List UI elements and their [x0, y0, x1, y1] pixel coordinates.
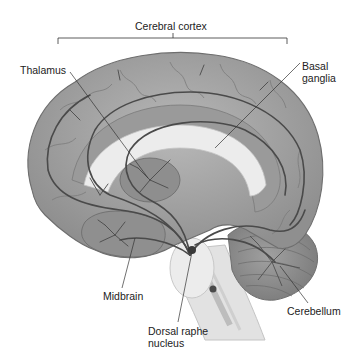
- label-basal-ganglia-line1: Basal: [302, 60, 336, 72]
- label-dorsal-raphe-nucleus: Dorsal raphe nucleus: [148, 325, 208, 349]
- label-midbrain: Midbrain: [103, 290, 143, 302]
- label-dorsal-raphe-line1: Dorsal raphe: [148, 325, 208, 337]
- lower-raphe-dot: [210, 286, 217, 293]
- label-thalamus: Thalamus: [20, 64, 66, 76]
- label-cerebral-cortex: Cerebral cortex: [135, 20, 207, 32]
- label-basal-ganglia-line2: ganglia: [302, 72, 336, 84]
- cerebral-cortex-bracket: [58, 33, 287, 44]
- cerebrum: [28, 52, 323, 257]
- label-dorsal-raphe-line2: nucleus: [148, 337, 208, 349]
- brain-diagram: [0, 0, 361, 355]
- label-cerebellum: Cerebellum: [287, 305, 341, 317]
- label-basal-ganglia: Basal ganglia: [302, 60, 336, 84]
